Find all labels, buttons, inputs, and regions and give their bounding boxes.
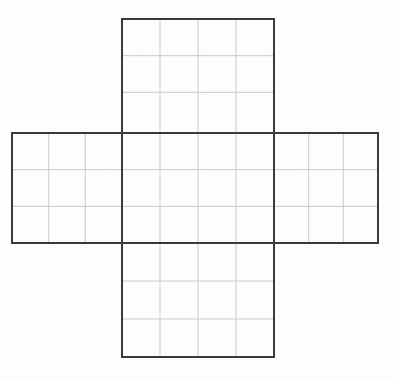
cube-net-figure [0, 0, 399, 380]
center-face [122, 133, 274, 243]
face-regions-group [12, 19, 378, 357]
left-face [12, 133, 122, 243]
bottom-face [122, 243, 274, 357]
figure-canvas [0, 0, 399, 380]
top-face [122, 19, 274, 133]
right-face [274, 133, 378, 243]
